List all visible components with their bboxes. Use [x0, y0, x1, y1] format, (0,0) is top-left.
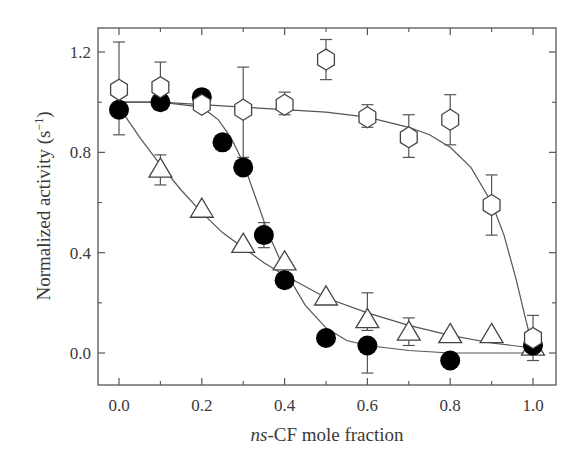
- fit-curves: [119, 102, 533, 353]
- hexagon-marker: [235, 99, 252, 120]
- circle-marker: [440, 351, 460, 371]
- x-tick-label: 0.6: [357, 396, 378, 415]
- y-axis-label: Normalized activity (s−1): [32, 112, 55, 301]
- fit-curve-hexagon-open: [119, 102, 533, 348]
- x-tick-label: 1.0: [522, 396, 543, 415]
- x-axis-label: ns-CF mole fraction: [250, 424, 404, 445]
- y-tick-labels: 0.00.40.81.2: [70, 43, 92, 363]
- y-tick-label: 1.2: [70, 43, 91, 62]
- x-tick-label: 0.8: [440, 396, 461, 415]
- hexagon-marker: [152, 77, 169, 98]
- circle-marker: [213, 132, 233, 152]
- hexagon-marker: [318, 49, 335, 70]
- hexagon-marker: [400, 127, 417, 148]
- fit-curve-triangle-open: [119, 107, 533, 348]
- hexagon-marker: [276, 94, 293, 115]
- y-tick-label: 0.0: [70, 344, 91, 363]
- data-markers: [109, 49, 544, 370]
- y-tick-label: 0.8: [70, 143, 91, 162]
- triangle-marker: [190, 198, 213, 217]
- triangle-marker: [149, 158, 172, 177]
- triangle-marker: [315, 286, 338, 305]
- hexagon-marker: [525, 328, 542, 349]
- circle-marker: [357, 335, 377, 355]
- hexagon-marker: [359, 107, 376, 128]
- hexagon-marker: [442, 109, 459, 130]
- triangle-marker: [356, 308, 379, 327]
- x-tick-labels: 0.00.20.40.60.81.0: [108, 396, 543, 415]
- y-tick-label: 0.4: [70, 244, 92, 263]
- x-tick-label: 0.0: [108, 396, 129, 415]
- hexagon-marker: [111, 79, 128, 100]
- triangle-marker: [397, 321, 420, 340]
- error-bars: [113, 40, 539, 374]
- chart: 0.00.20.40.60.81.0 0.00.40.81.2 ns-CF mo…: [0, 0, 584, 460]
- triangle-marker: [480, 323, 503, 342]
- circle-marker: [275, 270, 295, 290]
- circle-marker: [109, 100, 129, 120]
- circle-marker: [254, 225, 274, 245]
- circle-marker: [316, 328, 336, 348]
- fit-curve-circle-filled: [119, 102, 533, 353]
- circle-marker: [233, 157, 253, 177]
- x-tick-label: 0.4: [274, 396, 296, 415]
- triangle-marker: [232, 233, 255, 252]
- hexagon-marker: [483, 195, 500, 216]
- hexagon-marker: [193, 94, 210, 115]
- x-tick-label: 0.2: [191, 396, 212, 415]
